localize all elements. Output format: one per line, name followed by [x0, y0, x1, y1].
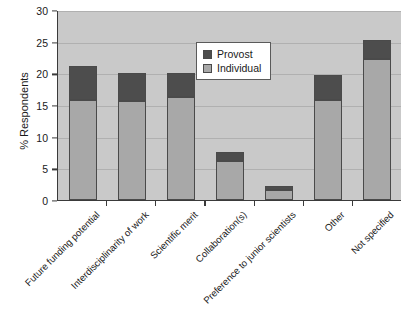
bar-group	[118, 10, 146, 200]
bar-segment-provost	[216, 152, 244, 161]
bar-group	[69, 10, 97, 200]
bar-chart: 051015202530 % Respondents Future fundin…	[0, 0, 414, 319]
y-tick-label: 10	[36, 132, 48, 144]
y-tick-label: 20	[36, 68, 48, 80]
bar-segment-provost	[118, 73, 146, 100]
legend-swatch-icon	[203, 64, 212, 73]
y-tick-label: 30	[36, 5, 48, 17]
bar-group	[363, 10, 391, 200]
bar-segment-provost	[69, 66, 97, 100]
bar-segment-individual	[69, 100, 97, 200]
legend-item: Individual	[203, 61, 261, 75]
bar-segment-provost	[363, 40, 391, 59]
bar-group	[265, 10, 293, 200]
bar-segment-provost	[265, 186, 293, 190]
bar-segment-individual	[265, 190, 293, 200]
bar-segment-individual	[216, 161, 244, 200]
bar-group	[167, 10, 195, 200]
bar-segment-individual	[314, 100, 342, 200]
legend-item: Provost	[203, 47, 261, 61]
bar-segment-individual	[363, 59, 391, 200]
legend-label: Individual	[217, 62, 261, 74]
chart-legend: ProvostIndividual	[196, 42, 271, 80]
y-axis-title: % Respondents	[18, 51, 30, 171]
bar-group	[314, 10, 342, 200]
legend-swatch-icon	[203, 50, 212, 59]
bar-group	[216, 10, 244, 200]
x-axis-labels: Future funding potentialInterdisciplinar…	[0, 205, 414, 319]
legend-label: Provost	[217, 48, 253, 60]
plot-area	[57, 11, 401, 201]
y-tick-label: 15	[36, 100, 48, 112]
y-tick-label: 25	[36, 37, 48, 49]
bar-segment-individual	[167, 97, 195, 200]
bar-segment-provost	[167, 73, 195, 97]
y-tick-label: 5	[42, 163, 48, 175]
bar-segment-individual	[118, 101, 146, 200]
bar-segment-provost	[314, 75, 342, 100]
